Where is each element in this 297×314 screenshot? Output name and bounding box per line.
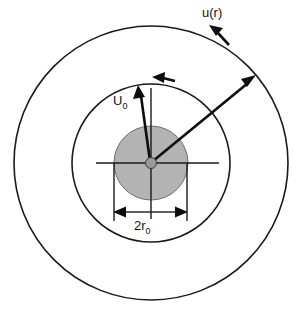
tangential-velocity-outer-line [218, 33, 229, 45]
label-outer-velocity: u(r) [202, 5, 222, 20]
tangential-velocity-core-line [163, 78, 175, 81]
radial-vector-outer [153, 83, 248, 161]
radial-vector-core-arrowhead-icon [133, 85, 145, 99]
dimension-arrow-right-icon [175, 207, 188, 218]
label-core-velocity: U0 [113, 93, 127, 111]
tangential-velocity-core-arrowhead-icon [152, 72, 165, 83]
label-core-velocity-base: U [113, 93, 122, 108]
label-core-diameter: 2r0 [134, 218, 151, 236]
dimension-arrow-left-icon [113, 207, 126, 218]
diagram-canvas: u(r) U0 2r0 [0, 0, 297, 314]
label-core-diameter-base: 2r [134, 218, 146, 233]
vortex-diagram-figure: u(r) U0 2r0 [0, 0, 297, 314]
label-core-velocity-subscript: 0 [122, 101, 127, 111]
radial-vector-outer-arrowhead-icon [241, 75, 256, 87]
label-core-diameter-subscript: 0 [146, 226, 151, 236]
center-hub [146, 158, 157, 169]
